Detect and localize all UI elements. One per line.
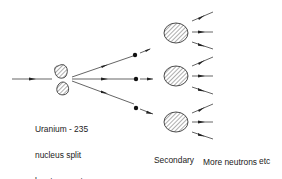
released-neutrons-top	[192, 12, 213, 49]
uranium-label-line-2: nucleus split	[35, 151, 95, 160]
released-neutrons-middle	[192, 57, 213, 94]
fissile-nucleus-bottom	[164, 112, 188, 132]
secondary-neutron-top	[72, 49, 151, 78]
secondary-label-line-1: Secondary	[154, 156, 199, 165]
secondary-neutrons-label: Secondary neutrons approach fissile nucl…	[154, 139, 199, 179]
uranium-label-line-3: by stray neutron	[35, 177, 95, 179]
uranium-fragment-top	[55, 65, 68, 79]
uranium-label-line-1: Uranium - 235	[35, 125, 95, 134]
more-neutrons-label: More neutrons will then be released	[203, 141, 257, 179]
etc-label: etc	[259, 157, 270, 166]
released-neutrons-bottom	[192, 104, 213, 139]
more-label-line-1: More neutrons	[203, 158, 257, 167]
uranium-fragment-bottom	[57, 82, 69, 95]
incoming-neutron-arrow	[12, 78, 52, 81]
uranium-label: Uranium - 235 nucleus split by stray neu…	[35, 108, 95, 179]
fissile-nucleus-top	[164, 23, 188, 43]
fissile-nucleus-middle	[164, 66, 188, 86]
secondary-neutron-middle	[72, 77, 153, 81]
